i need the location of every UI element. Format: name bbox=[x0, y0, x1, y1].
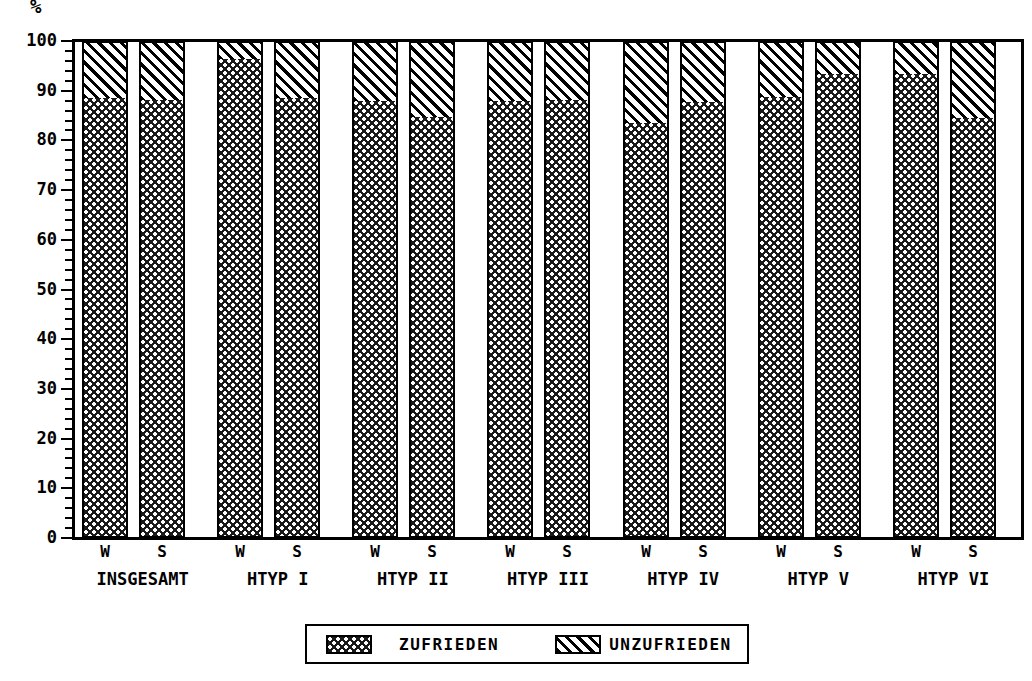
x-sublabel-w: W bbox=[352, 543, 398, 561]
bar-segment-zufrieden bbox=[623, 123, 669, 538]
y-tick-minor bbox=[65, 467, 73, 469]
bar-htyp-vi-w bbox=[893, 41, 939, 538]
bar-segment-zufrieden bbox=[217, 59, 263, 538]
y-tick-minor bbox=[65, 328, 73, 330]
bar-insgesamt-s bbox=[139, 41, 185, 538]
y-tick-minor bbox=[65, 308, 73, 310]
x-sublabel-w: W bbox=[623, 543, 669, 561]
y-tick-minor bbox=[65, 378, 73, 380]
bar-segment-zufrieden bbox=[409, 117, 455, 538]
chart-legend: ZUFRIEDEN UNZUFRIEDEN bbox=[305, 624, 749, 664]
y-tick-minor bbox=[65, 408, 73, 410]
y-tick-label: 40 bbox=[37, 330, 57, 347]
bar-segment-unzufrieden bbox=[815, 41, 861, 74]
y-tick-label: 20 bbox=[37, 430, 57, 447]
stacked-bar-chart: % 0102030405060708090100 WSWSWSWSWSWSWSI… bbox=[0, 0, 1032, 681]
y-tick-minor bbox=[65, 517, 73, 519]
y-tick-minor bbox=[65, 70, 73, 72]
legend-item-unzufrieden: UNZUFRIEDEN bbox=[555, 635, 731, 654]
x-sublabel-s: S bbox=[680, 543, 726, 561]
bar-htyp-iii-s bbox=[544, 41, 590, 538]
bar-htyp-ii-s bbox=[409, 41, 455, 538]
y-tick-label: 50 bbox=[37, 281, 57, 298]
y-tick-major bbox=[61, 239, 73, 241]
bar-segment-unzufrieden bbox=[352, 41, 398, 101]
y-tick-minor bbox=[65, 50, 73, 52]
bar-segment-unzufrieden bbox=[139, 41, 185, 100]
y-tick-minor bbox=[65, 179, 73, 181]
y-tick-minor bbox=[65, 129, 73, 131]
y-tick-label: 80 bbox=[37, 131, 57, 148]
y-tick-minor bbox=[65, 219, 73, 221]
bar-segment-unzufrieden bbox=[950, 41, 996, 118]
plot-right-border bbox=[1021, 41, 1024, 539]
y-tick-label: 100 bbox=[26, 32, 57, 49]
y-tick-minor bbox=[65, 318, 73, 320]
bar-segment-unzufrieden bbox=[544, 41, 590, 100]
y-tick-minor bbox=[65, 199, 73, 201]
bar-segment-zufrieden bbox=[680, 102, 726, 538]
y-tick-minor bbox=[65, 418, 73, 420]
bar-segment-unzufrieden bbox=[487, 41, 533, 101]
y-tick-minor bbox=[65, 398, 73, 400]
legend-item-zufrieden: ZUFRIEDEN bbox=[326, 635, 499, 654]
y-tick-minor bbox=[65, 348, 73, 350]
bar-htyp-vi-s bbox=[950, 41, 996, 538]
y-tick-minor bbox=[65, 448, 73, 450]
legend-label-unzufrieden: UNZUFRIEDEN bbox=[609, 635, 731, 654]
bar-segment-unzufrieden bbox=[893, 41, 939, 74]
y-tick-minor bbox=[65, 269, 73, 271]
y-tick-major bbox=[61, 139, 73, 141]
bar-htyp-v-w bbox=[758, 41, 804, 538]
bar-htyp-iv-s bbox=[680, 41, 726, 538]
y-tick-minor bbox=[65, 120, 73, 122]
bar-segment-zufrieden bbox=[352, 101, 398, 538]
bar-segment-zufrieden bbox=[139, 100, 185, 538]
y-tick-major bbox=[61, 40, 73, 42]
x-sublabel-w: W bbox=[893, 543, 939, 561]
x-sublabel-s: S bbox=[274, 543, 320, 561]
y-tick-minor bbox=[65, 209, 73, 211]
bar-segment-zufrieden bbox=[544, 100, 590, 538]
bar-segment-zufrieden bbox=[950, 118, 996, 538]
y-tick-minor bbox=[65, 159, 73, 161]
y-tick-major bbox=[61, 289, 73, 291]
x-sublabel-w: W bbox=[217, 543, 263, 561]
y-tick-minor bbox=[65, 229, 73, 231]
y-tick-major bbox=[61, 487, 73, 489]
x-group-label-htyp-vi: HTYP VI bbox=[872, 569, 1032, 589]
bar-segment-unzufrieden bbox=[680, 41, 726, 102]
bar-segment-zufrieden bbox=[815, 74, 861, 538]
bar-segment-unzufrieden bbox=[82, 41, 128, 98]
y-tick-major bbox=[61, 189, 73, 191]
bar-insgesamt-w bbox=[82, 41, 128, 538]
bar-segment-unzufrieden bbox=[758, 41, 804, 97]
y-tick-minor bbox=[65, 358, 73, 360]
y-tick-minor bbox=[65, 80, 73, 82]
y-tick-label: 10 bbox=[37, 479, 57, 496]
legend-swatch-zufrieden bbox=[326, 635, 372, 654]
y-tick-major bbox=[61, 90, 73, 92]
legend-label-zufrieden: ZUFRIEDEN bbox=[399, 635, 499, 654]
y-tick-minor bbox=[65, 477, 73, 479]
bar-segment-zufrieden bbox=[82, 98, 128, 538]
bar-segment-unzufrieden bbox=[274, 41, 320, 98]
y-tick-major bbox=[61, 388, 73, 390]
y-tick-label: 60 bbox=[37, 231, 57, 248]
y-tick-minor bbox=[65, 368, 73, 370]
bar-segment-zufrieden bbox=[893, 74, 939, 538]
bar-segment-unzufrieden bbox=[409, 41, 455, 117]
y-tick-minor bbox=[65, 149, 73, 151]
bar-segment-zufrieden bbox=[487, 101, 533, 538]
bar-segment-zufrieden bbox=[274, 98, 320, 538]
bar-htyp-iv-w bbox=[623, 41, 669, 538]
x-sublabel-s: S bbox=[950, 543, 996, 561]
y-tick-minor bbox=[65, 497, 73, 499]
bar-segment-unzufrieden bbox=[217, 41, 263, 59]
bar-segment-unzufrieden bbox=[623, 41, 669, 123]
y-tick-minor bbox=[65, 60, 73, 62]
bar-htyp-iii-w bbox=[487, 41, 533, 538]
x-sublabel-s: S bbox=[544, 543, 590, 561]
y-tick-minor bbox=[65, 279, 73, 281]
bar-htyp-i-s bbox=[274, 41, 320, 538]
